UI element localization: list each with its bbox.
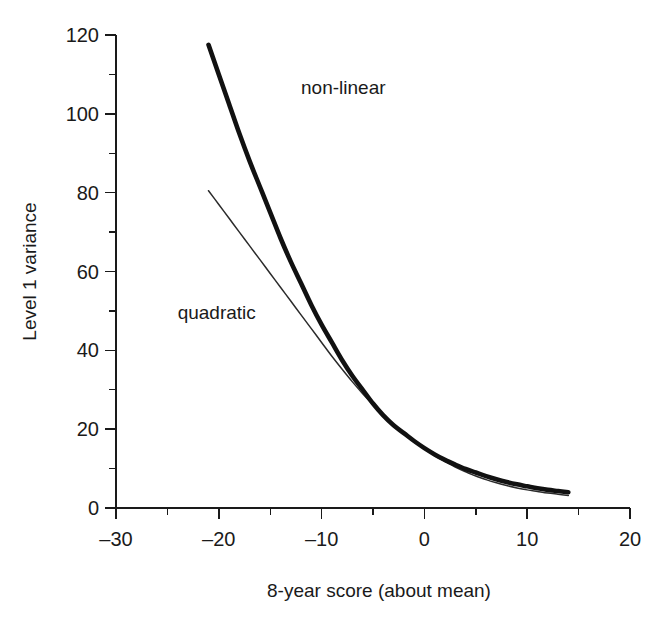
axes: 020406080100120–30–20–1001020 [66, 24, 642, 550]
chart-canvas: 020406080100120–30–20–1001020 non-linear… [0, 0, 672, 626]
curve-non-linear [209, 45, 569, 492]
y-tick-label-60: 60 [77, 261, 99, 283]
x-axis-title: 8-year score (about mean) [267, 580, 491, 601]
x-tick-label--20: –20 [202, 528, 235, 550]
y-tick-label-20: 20 [77, 418, 99, 440]
y-tick-label-0: 0 [88, 497, 99, 519]
y-axis-title: Level 1 variance [19, 202, 40, 340]
chart-figure: 020406080100120–30–20–1001020 non-linear… [0, 0, 672, 626]
series-label-quadratic: quadratic [178, 302, 256, 323]
x-tick-label-10: 10 [516, 528, 538, 550]
series-annotations: non-linearquadratic [178, 77, 387, 323]
series-label-non-linear: non-linear [301, 77, 386, 98]
x-tick-label--10: –10 [305, 528, 338, 550]
x-tick-label-20: 20 [619, 528, 641, 550]
x-tick-label-0: 0 [419, 528, 430, 550]
data-curves [209, 45, 569, 496]
curve-quadratic [209, 191, 569, 496]
y-tick-label-80: 80 [77, 182, 99, 204]
y-tick-label-120: 120 [66, 24, 99, 46]
y-tick-label-40: 40 [77, 339, 99, 361]
y-tick-label-100: 100 [66, 103, 99, 125]
x-tick-label--30: –30 [99, 528, 132, 550]
